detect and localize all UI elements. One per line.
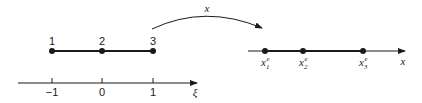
mapping-label: x [204,2,210,14]
mapping-arrow: x [152,2,262,29]
mapping-diagram: 1 2 3 −1 0 1 ξ x x1e x2e x3e x [0,0,422,103]
parent-node-label-3: 3 [150,35,156,47]
x-axis-label: x [400,55,406,67]
xi-tick-label-0: 0 [99,86,105,98]
physical-node-2 [300,48,306,54]
physical-node-3 [360,48,366,54]
xi-tick-label-minus-1: −1 [46,86,59,98]
xi-axis-label: ξ [193,86,198,99]
parent-node-3 [150,48,156,54]
parent-node-label-2: 2 [99,35,105,47]
mapping-arc-icon [152,16,262,29]
physical-node-label-3: x3e [358,55,368,71]
physical-node-1 [262,48,268,54]
physical-node-label-1: x1e [260,55,270,71]
parent-node-label-1: 1 [49,35,55,47]
physical-element: x1e x2e x3e x [248,48,406,71]
parent-node-1 [49,48,55,54]
parent-node-2 [99,48,105,54]
physical-node-label-2: x2e [298,55,308,71]
xi-tick-label-1: 1 [150,86,156,98]
parent-element: 1 2 3 [49,35,156,54]
xi-axis: −1 0 1 ξ [18,78,198,99]
